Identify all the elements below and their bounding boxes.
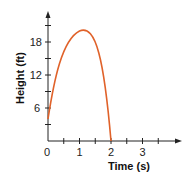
x-axis [48, 138, 182, 144]
y-tick-label-6: 6 [34, 102, 40, 114]
x-axis-arrow-icon [175, 139, 182, 144]
x-tick-label-3: 3 [140, 146, 146, 158]
x-tick-label-1: 1 [77, 146, 83, 158]
y-axis-title: Height (ft) [14, 52, 26, 104]
y-axis [45, 11, 51, 141]
height-time-chart: 0 1 2 3 6 12 18 Time (s) Height (ft) [0, 0, 185, 176]
x-axis-title: Time (s) [108, 160, 150, 172]
y-axis-arrow-icon [46, 11, 51, 18]
height-curve [48, 30, 111, 141]
x-tick-label-0: 0 [44, 146, 50, 158]
y-tick-label-18: 18 [30, 36, 42, 48]
y-tick-label-12: 12 [30, 69, 42, 81]
x-tick-label-2: 2 [108, 146, 114, 158]
